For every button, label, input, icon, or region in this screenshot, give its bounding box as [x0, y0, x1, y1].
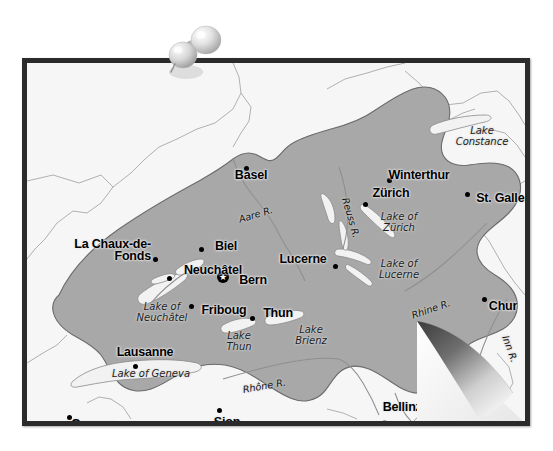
- lake-label-geneva[interactable]: Lake of Geneva: [91, 369, 211, 379]
- city-dot-sion: [217, 408, 222, 413]
- city-dot-la-chaux-de-fonds: [153, 257, 158, 262]
- lake-label-lucerne[interactable]: Lake of Lucerne: [359, 258, 439, 280]
- city-label-bern[interactable]: Bern: [231, 274, 275, 287]
- city-dot-thun: [250, 316, 255, 321]
- city-label-st-gallen[interactable]: St. Gallen: [447, 192, 525, 205]
- city-label-biel[interactable]: Biel: [203, 240, 249, 253]
- city-label-thun[interactable]: Thun: [257, 307, 299, 320]
- map-screenshot: ★ Basel Winterthur Zürich St. Gallen Bie…: [0, 0, 553, 451]
- city-label-basel[interactable]: Basel: [221, 169, 281, 182]
- city-label-chur[interactable]: Chur: [483, 300, 523, 313]
- lake-label-zurich[interactable]: Lake of Zürich: [359, 211, 439, 233]
- lake-label-brienz[interactable]: Lake Brienz: [277, 324, 345, 346]
- city-label-winterthur[interactable]: Winterthur: [362, 169, 476, 182]
- city-label-zurich[interactable]: Zürich: [349, 187, 433, 200]
- city-label-la-chaux-de-fonds-line2[interactable]: Fonds: [47, 250, 151, 263]
- lake-label-neuchatel[interactable]: Lake of Neuchâtel: [115, 301, 209, 323]
- city-dot-zurich: [363, 202, 368, 207]
- map-canvas[interactable]: ★ Basel Winterthur Zürich St. Gallen Bie…: [27, 63, 525, 421]
- city-label-geneva[interactable]: Geneva: [51, 418, 135, 421]
- city-label-sion[interactable]: Sion: [205, 416, 249, 421]
- page-curl-bottom-right: [409, 321, 525, 421]
- pushpin-icon[interactable]: [160, 22, 228, 84]
- city-label-lucerne[interactable]: Lucerne: [271, 253, 335, 266]
- lake-label-constance[interactable]: Lake Constance: [435, 125, 525, 147]
- city-label-lausanne[interactable]: Lausanne: [93, 346, 197, 359]
- lake-label-thun[interactable]: Lake Thun: [207, 330, 271, 352]
- city-dot-neuchatel: [167, 276, 172, 281]
- map-paper[interactable]: ★ Basel Winterthur Zürich St. Gallen Bie…: [22, 58, 530, 426]
